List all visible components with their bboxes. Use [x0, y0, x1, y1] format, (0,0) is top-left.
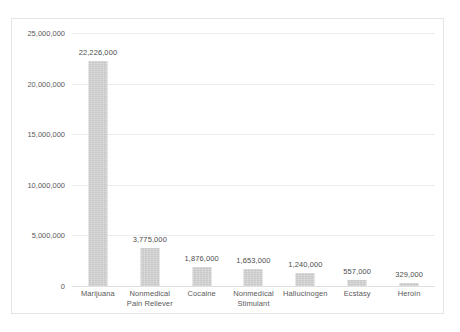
bars-layer: 22,226,000 3,775,000 1,876,000 1,653,000… — [72, 33, 435, 286]
x-category-heroin: Heroin — [383, 289, 435, 299]
y-tick-label: 15,000,000 — [27, 130, 65, 139]
bar-chart: 25,000,000 20,000,000 15,000,000 10,000,… — [0, 0, 460, 332]
x-category-label-line1: Nonmedical — [233, 289, 274, 298]
x-category-ecstasy: Ecstasy — [331, 289, 383, 299]
bar-slot: 3,775,000 — [124, 33, 176, 286]
y-tick-label: 25,000,000 — [27, 29, 65, 38]
x-category-hallucinogen: Hallucinogen — [279, 289, 331, 299]
bar-nonmedical-pain-reliever — [140, 248, 159, 286]
bar-value-label: 1,653,000 — [236, 256, 270, 265]
gridline-zero-baseline — [72, 286, 435, 287]
bar-heroin — [400, 283, 419, 286]
x-category-label-line1: Cocaine — [188, 289, 216, 298]
x-category-label-line1: Heroin — [398, 289, 421, 298]
bar-value-label: 1,876,000 — [184, 254, 218, 263]
y-tick-label: 5,000,000 — [32, 231, 65, 240]
bar-slot: 1,876,000 — [176, 33, 228, 286]
bar-hallucinogen — [296, 273, 315, 286]
x-category-label-line1: Hallucinogen — [283, 289, 328, 298]
bar-marijuana — [88, 61, 107, 286]
bar-value-label: 3,775,000 — [133, 235, 167, 244]
bar-value-label: 22,226,000 — [79, 48, 118, 57]
y-tick-label: 0 — [61, 282, 65, 291]
bar-slot: 1,240,000 — [279, 33, 331, 286]
bar-value-label: 1,240,000 — [288, 260, 322, 269]
bar-value-label: 557,000 — [343, 267, 371, 276]
bar-nonmedical-stimulant — [244, 269, 263, 286]
bar-value-label: 329,000 — [395, 270, 423, 279]
bar-slot: 557,000 — [331, 33, 383, 286]
bar-cocaine — [192, 267, 211, 286]
x-category-label-line1: Marijuana — [81, 289, 115, 298]
bar-ecstasy — [348, 280, 367, 286]
plot-area: 22,226,000 3,775,000 1,876,000 1,653,000… — [72, 33, 435, 286]
x-axis: Marijuana Nonmedical Pain Reliever Cocai… — [72, 289, 435, 313]
x-category-label-line1: Ecstasy — [344, 289, 371, 298]
bar-slot: 22,226,000 — [72, 33, 124, 286]
x-category-cocaine: Cocaine — [176, 289, 228, 299]
y-tick-label: 10,000,000 — [27, 180, 65, 189]
x-category-marijuana: Marijuana — [72, 289, 124, 299]
bar-slot: 329,000 — [383, 33, 435, 286]
x-category-label-line2: Stimulant — [228, 299, 280, 309]
bar-slot: 1,653,000 — [228, 33, 280, 286]
x-category-label-line2: Pain Reliever — [124, 299, 176, 309]
x-category-nonmedical-stimulant: Nonmedical Stimulant — [228, 289, 280, 309]
x-category-nonmedical-pain-reliever: Nonmedical Pain Reliever — [124, 289, 176, 309]
y-tick-label: 20,000,000 — [27, 79, 65, 88]
y-axis: 25,000,000 20,000,000 15,000,000 10,000,… — [11, 33, 69, 286]
x-category-label-line1: Nonmedical — [129, 289, 170, 298]
